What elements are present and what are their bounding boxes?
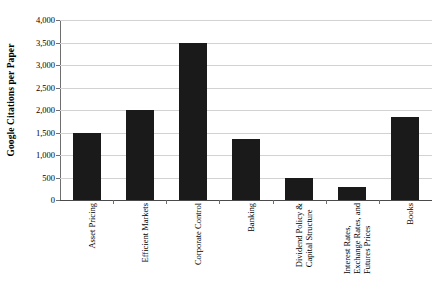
x-category-label-line: Corporate Control (193, 203, 203, 265)
gridline (60, 20, 432, 21)
bar (126, 110, 154, 200)
gridline (60, 133, 432, 134)
x-category-label-line: Efficient Markets (140, 203, 150, 263)
x-category-label-line: Books (405, 203, 415, 225)
bar (338, 187, 366, 201)
y-tick-label: 2,500 (36, 83, 55, 93)
y-axis-title-label: Google Citations per Paper (6, 44, 16, 157)
x-category-label-line: Futures Prices (362, 203, 372, 274)
y-tick-label: 2,000 (36, 105, 55, 115)
bar (391, 117, 419, 200)
x-axis-category-labels: Asset PricingEfficient MarketsCorporate … (60, 203, 432, 303)
gridline (60, 110, 432, 111)
bar (179, 43, 207, 201)
x-category-label-line: Banking (246, 203, 256, 232)
bar (232, 139, 260, 200)
y-tick-mark (56, 20, 60, 21)
y-tick-label: 0 (51, 195, 55, 205)
x-category-label-line: Dividend Policy & (294, 203, 304, 267)
y-tick-mark (56, 178, 60, 179)
y-axis-title: Google Citations per Paper (0, 0, 22, 200)
gridline (60, 88, 432, 89)
bar (73, 133, 101, 201)
y-tick-mark (56, 110, 60, 111)
y-tick-mark (56, 133, 60, 134)
y-tick-mark (56, 155, 60, 156)
y-tick-label: 500 (42, 173, 55, 183)
y-tick-mark (56, 88, 60, 89)
x-category-label-line: Exchange Rates, and (352, 203, 362, 274)
y-tick-label: 3,500 (36, 38, 55, 48)
y-tick-mark (56, 200, 60, 201)
x-category-label-line: Capital Structure (304, 203, 314, 267)
bar-chart-figure: Google Citations per Paper 05001,0001,50… (0, 0, 435, 305)
y-tick-label: 4,000 (36, 15, 55, 25)
gridline (60, 43, 432, 44)
bar (285, 178, 313, 200)
y-tick-mark (56, 65, 60, 66)
x-category-label-line: Interest Rates, (342, 203, 352, 274)
plot-area: 05001,0001,5002,0002,5003,0003,5004,000 (60, 20, 432, 200)
x-category-label-line: Asset Pricing (87, 203, 97, 249)
gridline (60, 65, 432, 66)
x-axis-line (60, 200, 432, 201)
y-tick-label: 1,000 (36, 150, 55, 160)
y-tick-label: 3,000 (36, 60, 55, 70)
y-tick-label: 1,500 (36, 128, 55, 138)
y-tick-mark (56, 43, 60, 44)
